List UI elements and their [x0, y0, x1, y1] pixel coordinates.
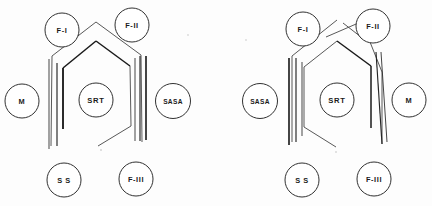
- node-sasa-label: SASA: [250, 98, 270, 105]
- node-m[interactable]: M: [5, 84, 39, 118]
- node-f3-label: F-III: [128, 175, 144, 184]
- node-ss[interactable]: S S: [285, 163, 319, 197]
- scan-speck: [335, 151, 337, 153]
- node-ss[interactable]: S S: [47, 163, 81, 197]
- node-f3-label: F-III: [366, 175, 382, 184]
- node-f1-label: F-I: [298, 25, 309, 34]
- node-f1[interactable]: F-I: [286, 12, 320, 46]
- bar-group-right: [376, 52, 387, 144]
- left-panel: F-I F-II M SASA SRT S S: [0, 0, 216, 206]
- node-srt-center[interactable]: SRT: [320, 83, 354, 117]
- node-srt-label: SRT: [87, 96, 104, 105]
- scan-speck: [187, 34, 189, 36]
- node-f2[interactable]: F-II: [356, 9, 390, 43]
- node-sasa-label: SASA: [163, 98, 183, 105]
- node-f1[interactable]: F-I: [45, 13, 79, 47]
- node-ss-label: S S: [295, 176, 309, 185]
- node-sasa[interactable]: SASA: [156, 84, 191, 119]
- right-panel: F-I F-II SASA M SRT S S: [216, 0, 432, 206]
- node-ss-label: S S: [57, 176, 71, 185]
- scan-speck: [245, 39, 247, 41]
- bar-group-left: [289, 58, 302, 145]
- scan-speck: [100, 149, 102, 151]
- node-f2-label: F-II: [366, 22, 379, 31]
- node-srt-label: SRT: [328, 96, 345, 105]
- node-srt-center[interactable]: SRT: [79, 83, 113, 117]
- node-f3[interactable]: F-III: [119, 162, 153, 196]
- figure-canvas: F-I F-II M SASA SRT S S: [0, 0, 432, 206]
- node-f1-label: F-I: [57, 26, 68, 35]
- node-sasa[interactable]: SASA: [243, 84, 278, 119]
- node-f2[interactable]: F-II: [115, 8, 149, 42]
- node-f3[interactable]: F-III: [357, 162, 391, 196]
- node-m-label: M: [406, 96, 413, 105]
- node-m-label: M: [19, 97, 26, 106]
- node-m[interactable]: M: [392, 83, 426, 117]
- node-f2-label: F-II: [125, 21, 138, 30]
- bar-group-right: [135, 56, 146, 141]
